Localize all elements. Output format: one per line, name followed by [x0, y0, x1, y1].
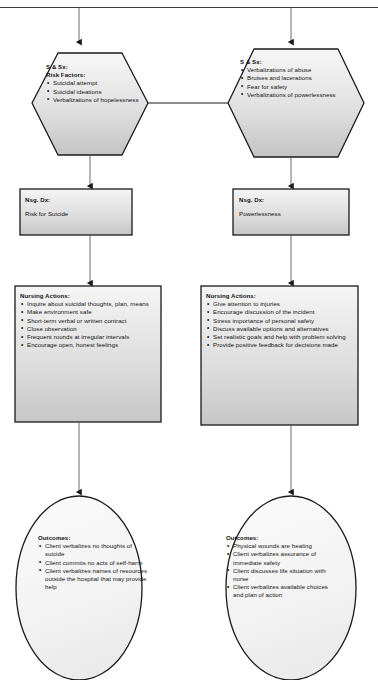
list-item: Give attention to injuries — [213, 300, 354, 308]
actions-heading-left: Nursing Actions: — [20, 292, 166, 300]
list-item: Client verbalizes no thoughts of suicide — [45, 542, 150, 558]
assessment-text-right: S & Sx: Verbalizations of abuse Bruises … — [240, 58, 344, 99]
list-item: Make environment safe — [27, 308, 166, 316]
list-item: Verbalizations of hopelessness — [53, 96, 144, 104]
outcomes-heading-left: Outcomes: — [38, 534, 150, 542]
list-item: Close observation — [27, 325, 166, 333]
list-item: Verbalizations of abuse — [247, 66, 344, 74]
list-item: Provide positive feedback for decisions … — [213, 341, 354, 349]
flowchart-canvas: S & Sx: Risk Factors: Suicidal attempt S… — [0, 0, 378, 680]
list-item: Bruises and lacerations — [247, 74, 344, 82]
list-item: Encourage discussion of the incident — [213, 308, 354, 316]
list-item: Suicidal attempt — [53, 79, 144, 87]
diagnosis-value-right: Powerlessness — [239, 210, 359, 218]
list-item: Stress importance of personal safety — [213, 317, 354, 325]
list-item: Discuss available options and alternativ… — [213, 325, 354, 333]
list-item: Client commits no acts of self-harm — [45, 559, 150, 567]
diagnosis-heading-left: Nsg. Dx: — [25, 196, 145, 204]
list-item: Inquire about suicidal thoughts, plan, m… — [27, 300, 166, 308]
list-item: Client verbalizes names of resources out… — [45, 567, 150, 592]
diagnosis-text-right: Nsg. Dx: Powerlessness — [239, 196, 359, 218]
outcomes-text-right: Outcomes: Physical wounds are healing Cl… — [226, 534, 340, 600]
actions-text-left: Nursing Actions: Inquire about suicidal … — [20, 292, 166, 349]
diagnosis-value-left: Risk for Suicide — [25, 210, 145, 218]
diagnosis-heading-right: Nsg. Dx: — [239, 196, 359, 204]
list-item: Frequent rounds at irregular intervals — [27, 333, 166, 341]
actions-list-left: Inquire about suicidal thoughts, plan, m… — [20, 300, 166, 349]
list-item: Client discusses life situation with nur… — [233, 567, 340, 583]
outcomes-heading-right: Outcomes: — [226, 534, 340, 542]
actions-list-right: Give attention to injuries Encourage dis… — [206, 300, 354, 349]
outcomes-list-left: Client verbalizes no thoughts of suicide… — [38, 542, 150, 591]
list-item: Encourage open, honest feelings — [27, 341, 166, 349]
list-item: Client verbalizes assurance of immediate… — [233, 550, 340, 566]
outcomes-text-left: Outcomes: Client verbalizes no thoughts … — [38, 534, 150, 591]
actions-heading-right: Nursing Actions: — [206, 292, 354, 300]
list-item: Physical wounds are healing — [233, 542, 340, 550]
assessment-text-left: S & Sx: Risk Factors: Suicidal attempt S… — [46, 63, 144, 104]
list-item: Client verbalizes available choices and … — [233, 583, 340, 599]
outcomes-list-right: Physical wounds are healing Client verba… — [226, 542, 340, 599]
list-item: Short-term verbal or written contract — [27, 317, 166, 325]
assessment-heading-left: S & Sx: — [46, 63, 144, 71]
list-item: Fear for safety — [247, 83, 344, 91]
assessment-subheading-left: Risk Factors: — [46, 71, 144, 79]
assessment-list-left: Suicidal attempt Suicidal ideations Verb… — [46, 79, 144, 104]
actions-text-right: Nursing Actions: Give attention to injur… — [206, 292, 354, 349]
assessment-heading-right: S & Sx: — [240, 58, 344, 66]
list-item: Set realistic goals and help with proble… — [213, 333, 354, 341]
list-item: Suicidal ideations — [53, 88, 144, 96]
diagnosis-text-left: Nsg. Dx: Risk for Suicide — [25, 196, 145, 218]
assessment-list-right: Verbalizations of abuse Bruises and lace… — [240, 66, 344, 99]
list-item: Verbalizations of powerlessness — [247, 91, 344, 99]
